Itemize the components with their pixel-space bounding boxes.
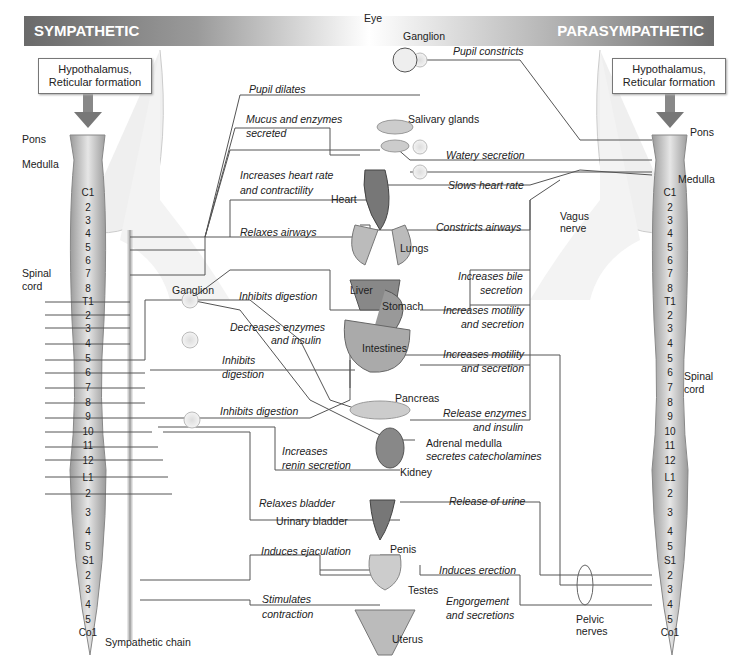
segment-label: T1 — [78, 296, 98, 307]
brain-box-line1: Hypothalamus, — [45, 63, 145, 76]
label-pons-right: Pons — [690, 126, 714, 138]
segment-label: C1 — [660, 187, 680, 198]
segment-label: S1 — [78, 555, 98, 566]
label-ganglion-top: Ganglion — [403, 30, 445, 42]
effect-mucus-2: secreted — [246, 126, 286, 140]
label-sympathetic-chain: Sympathetic chain — [105, 636, 191, 648]
segment-label: 11 — [660, 440, 680, 451]
segment-label: 10 — [660, 426, 680, 437]
segment-label: 2 — [78, 202, 98, 213]
hypothalamus-box-left: Hypothalamus, Reticular formation — [38, 58, 152, 94]
segment-label: 4 — [660, 338, 680, 349]
segment-label: 12 — [660, 455, 680, 466]
effect-release-enzymes-2: and insulin — [473, 420, 523, 434]
segment-label: 8 — [78, 397, 98, 408]
segment-label: C1 — [78, 187, 98, 198]
segment-label: 3 — [660, 507, 680, 518]
label-vagus: Vagus — [560, 210, 589, 222]
segment-label: 6 — [660, 367, 680, 378]
effect-relaxes-bladder: Relaxes bladder — [259, 496, 335, 510]
segment-label: 5 — [78, 541, 98, 552]
label-cord-left: cord — [22, 280, 42, 292]
effect-bile: Increases bile — [458, 269, 523, 283]
label-stomach: Stomach — [382, 300, 423, 312]
segment-label: 5 — [78, 614, 98, 625]
effect-pupil-constricts: Pupil constricts — [453, 44, 524, 58]
segment-label: 4 — [660, 599, 680, 610]
label-salivary: Salivary glands — [408, 113, 479, 125]
label-pancreas: Pancreas — [395, 392, 439, 404]
effect-slows-heart: Slows heart rate — [448, 178, 524, 192]
segment-label: 4 — [78, 228, 98, 239]
segment-label: 5 — [78, 353, 98, 364]
effect-stimulates-contraction-2: contraction — [262, 607, 313, 621]
segment-label: 5 — [660, 541, 680, 552]
label-intestines: Intestines — [362, 342, 407, 354]
segment-label: Co1 — [660, 627, 680, 638]
effect-inhibits-digestion-1: Inhibits digestion — [239, 289, 317, 303]
effect-induces-erection: Induces erection — [439, 563, 516, 577]
segment-label: 2 — [660, 202, 680, 213]
segment-label: 2 — [78, 310, 98, 321]
effect-constricts-airways: Constricts airways — [436, 220, 521, 234]
segment-label: S1 — [660, 555, 680, 566]
segment-label: 2 — [660, 488, 680, 499]
effect-release-enzymes: Release enzymes — [443, 406, 526, 420]
segment-label: 5 — [660, 242, 680, 253]
segment-label: 8 — [660, 397, 680, 408]
segment-label: 2 — [660, 310, 680, 321]
segment-label: 8 — [78, 283, 98, 294]
label-pons-left: Pons — [22, 133, 46, 145]
diagram-lines — [0, 0, 739, 672]
segment-label: L1 — [78, 472, 98, 483]
label-uterus: Uterus — [392, 633, 423, 645]
label-adrenal-effect: secretes catecholamines — [426, 449, 542, 463]
effect-watery-secretion: Watery secretion — [446, 148, 525, 162]
label-liver: Liver — [350, 284, 373, 296]
brain-box-line2: Reticular formation — [45, 76, 145, 89]
label-ganglion-left: Ganglion — [172, 284, 214, 296]
segment-label: 9 — [78, 411, 98, 422]
effect-renin-2: renin secretion — [282, 458, 351, 472]
segment-label: 3 — [660, 323, 680, 334]
segment-label: 4 — [78, 338, 98, 349]
label-spinal-left: Spinal — [22, 267, 51, 279]
label-penis: Penis — [390, 543, 416, 555]
segment-label: 4 — [660, 526, 680, 537]
label-spinal-right: Spinal — [684, 370, 713, 382]
hypothalamus-box-right: Hypothalamus, Reticular formation — [612, 58, 726, 94]
segment-label: 9 — [660, 411, 680, 422]
segment-label: 12 — [78, 455, 98, 466]
effect-stimulates-contraction: Stimulates — [262, 592, 311, 606]
effect-relaxes-airways: Relaxes airways — [240, 225, 316, 239]
segment-label: 6 — [78, 255, 98, 266]
label-kidney: Kidney — [400, 466, 432, 478]
effect-motility-2: Increases motility — [443, 347, 524, 361]
segment-label: 2 — [660, 570, 680, 581]
effect-inhibits-digestion-2b: digestion — [222, 367, 264, 381]
segment-label: 2 — [78, 488, 98, 499]
segment-label: 5 — [660, 614, 680, 625]
effect-decreases-enzymes-2: and insulin — [271, 333, 321, 347]
segment-label: 6 — [78, 367, 98, 378]
segment-label: 7 — [660, 382, 680, 393]
effect-pupil-dilates: Pupil dilates — [249, 82, 306, 96]
segment-label: 8 — [660, 283, 680, 294]
effect-decreases-enzymes: Decreases enzymes — [230, 320, 325, 334]
label-cord-right: cord — [684, 383, 704, 395]
label-medulla-left: Medulla — [22, 158, 59, 170]
segment-label: 5 — [78, 242, 98, 253]
brain-box-line2: Reticular formation — [619, 76, 719, 89]
label-lungs: Lungs — [400, 242, 429, 254]
label-heart: Heart — [331, 193, 357, 205]
segment-label: 6 — [660, 255, 680, 266]
segment-label: 3 — [78, 584, 98, 595]
segment-label: 10 — [78, 426, 98, 437]
segment-label: 4 — [78, 526, 98, 537]
segment-label: Co1 — [78, 627, 98, 638]
label-pelvic: Pelvic — [576, 613, 604, 625]
label-nerve: nerve — [560, 222, 586, 234]
effect-mucus: Mucus and enzymes — [246, 112, 342, 126]
segment-label: 3 — [660, 584, 680, 595]
segment-label: 7 — [660, 268, 680, 279]
